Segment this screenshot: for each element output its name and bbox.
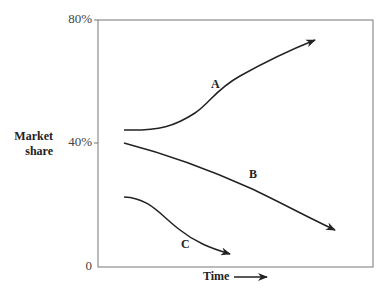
plot-frame (98, 20, 373, 267)
curve-label-c: C (181, 237, 190, 252)
ytick-0: 0 (52, 258, 92, 274)
curve-label-a: A (211, 77, 220, 92)
x-axis-label: Time (203, 269, 229, 284)
y-axis-label-line2: share (0, 144, 53, 159)
ytick-40: 40% (52, 134, 92, 150)
y-axis-label: Market share (0, 129, 53, 159)
ytick-80: 80% (52, 11, 92, 27)
curve-b (124, 143, 335, 230)
curve-c (124, 197, 230, 254)
y-axis-label-line1: Market (0, 129, 53, 144)
curve-label-b: B (249, 167, 257, 182)
